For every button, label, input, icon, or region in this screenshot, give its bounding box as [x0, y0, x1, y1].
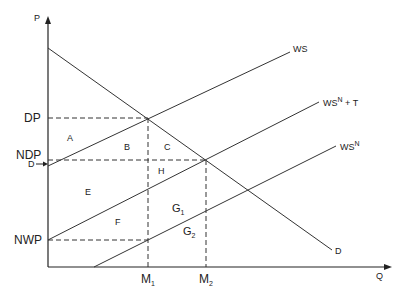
d-marker-label: D [28, 160, 35, 169]
y-axis-arrow-icon [45, 16, 51, 24]
d-marker-arrow-icon [43, 162, 48, 167]
area-g2-label: G2 [183, 226, 195, 239]
wsn-plus-t-curve [48, 102, 319, 240]
nwp-label: NWP [14, 234, 42, 246]
area-e-label: E [85, 188, 91, 197]
area-g1-label: G1 [172, 203, 184, 216]
x-axis-label: Q [376, 272, 383, 281]
ws-label: WS [293, 45, 308, 54]
wsn-label: WSN [340, 140, 360, 152]
m1-label: M1 [141, 273, 155, 287]
demand-label: D [335, 247, 342, 256]
wsn-curve [94, 146, 336, 267]
wsn-plus-t-label: WSN + T [323, 96, 358, 108]
area-f-label: F [115, 218, 121, 227]
area-c-label: C [164, 143, 171, 152]
m2-label: M2 [199, 273, 213, 287]
area-b-label: B [124, 143, 130, 152]
dp-label: DP [24, 112, 41, 124]
area-a-label: A [67, 134, 73, 143]
demand-curve [48, 48, 332, 250]
area-h-label: H [158, 167, 165, 176]
y-axis-label: P [34, 14, 40, 23]
x-axis-arrow-icon [384, 264, 392, 270]
